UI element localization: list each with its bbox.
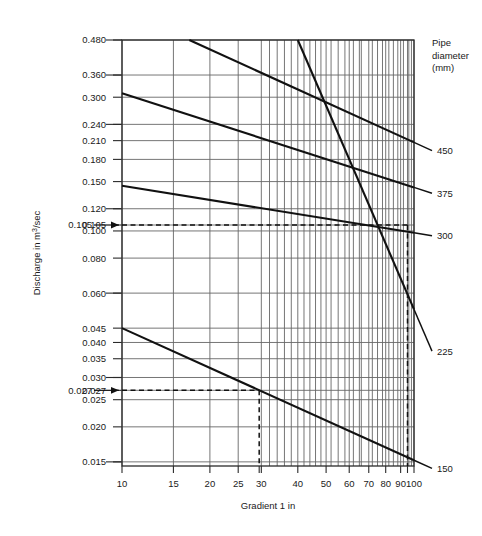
annotation-arrow-head-discharge-0-105 [111, 222, 119, 229]
legend-title-line-2: (mm) [432, 62, 454, 73]
series-leader-375 [414, 187, 432, 193]
series-leader-300 [414, 233, 432, 236]
nomograph-chart: 0.4800.3600.3000.2400.2100.1800.1500.120… [0, 0, 482, 536]
x-axis-tick-label: 70 [363, 478, 374, 489]
series-label-225: 225 [437, 346, 453, 357]
series-line-450 [189, 40, 414, 142]
y-axis-tick-label: 0.240 [82, 119, 106, 130]
series-label-450: 450 [437, 145, 453, 156]
y-axis-tick-label: 0.210 [82, 135, 106, 146]
y-axis-tick-label: 0.480 [82, 34, 106, 45]
y-axis-tick-label: 0.360 [82, 69, 106, 80]
series-leader-450 [414, 142, 432, 150]
y-axis-tick-label: 0.030 [82, 372, 106, 383]
y-axis-tick-label: 0.040 [82, 337, 106, 348]
y-axis-tick-label: 0.025 [82, 394, 106, 405]
x-axis-tick-label: 15 [168, 478, 179, 489]
x-axis-tick-label: 90 [395, 478, 406, 489]
y-axis-tick-label: 0.035 [82, 353, 106, 364]
annotation-value-discharge-0-027: 0.027 [68, 385, 92, 396]
y-axis-tick-label: 0.015 [82, 456, 106, 467]
annotation-arrow-head-discharge-0-027 [111, 387, 119, 394]
y-axis-tick-label: 0.300 [82, 92, 106, 103]
series-leader-225 [414, 309, 432, 351]
y-axis-tick-label: 0.060 [82, 288, 106, 299]
y-axis-title: Discharge in m3/sec [31, 210, 42, 295]
y-axis-title-tail: /sec [31, 210, 42, 228]
chart-canvas: 0.4800.3600.3000.2400.2100.1800.1500.120… [0, 0, 482, 536]
x-axis-tick-label: 40 [293, 478, 304, 489]
y-axis-tick-label: 0.080 [82, 253, 106, 264]
y-axis-tick-label: 0.150 [82, 176, 106, 187]
x-axis-tick-label: 30 [256, 478, 267, 489]
plot-frame [122, 40, 414, 466]
legend-title-line-0: Pipe [432, 37, 451, 48]
x-axis-tick-label: 25 [233, 478, 244, 489]
annotation-value-discharge-0-105: 0.105 [68, 219, 92, 230]
y-axis-tick-label: 0.045 [82, 323, 106, 334]
x-axis-tick-label: 100 [406, 478, 422, 489]
x-axis-tick-label: 60 [344, 478, 355, 489]
series-label-375: 375 [437, 188, 453, 199]
x-axis-tick-label: 20 [205, 478, 216, 489]
x-axis-title: Gradient 1 in [241, 500, 295, 511]
series-leader-150 [414, 460, 432, 468]
x-axis-tick-label: 10 [117, 478, 128, 489]
series-line-150 [122, 328, 414, 460]
series-label-300: 300 [437, 230, 453, 241]
x-axis-tick-label: 80 [380, 478, 391, 489]
x-axis-tick-label: 50 [321, 478, 332, 489]
series-label-150: 150 [437, 463, 453, 474]
y-axis-tick-label: 0.180 [82, 154, 106, 165]
y-axis-title-main: Discharge in m [31, 232, 42, 295]
legend-title-line-1: diameter [432, 50, 469, 61]
y-axis-tick-label: 0.120 [82, 203, 106, 214]
y-axis-tick-label: 0.020 [82, 421, 106, 432]
